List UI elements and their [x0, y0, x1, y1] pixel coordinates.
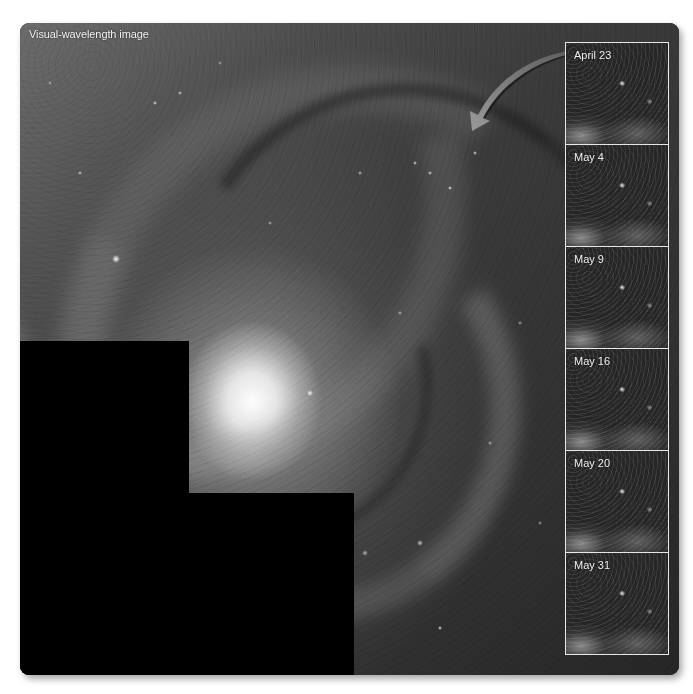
inset-date-label: April 23 [574, 49, 611, 61]
inset-panel: May 20 [566, 451, 668, 553]
inset-panel: May 9 [566, 247, 668, 349]
inset-date-label: May 20 [574, 457, 610, 469]
inset-date-label: May 31 [574, 559, 610, 571]
inset-date-label: May 16 [574, 355, 610, 367]
inset-date-label: May 9 [574, 253, 604, 265]
no-data-mask-lower [20, 493, 354, 675]
inset-panel: May 16 [566, 349, 668, 451]
inset-date-label: May 4 [574, 151, 604, 163]
inset-panel: April 23 [566, 43, 668, 145]
inset-panel: May 4 [566, 145, 668, 247]
time-series-insets: April 23 May 4 May 9 May 16 May 20 May 3… [565, 42, 669, 655]
image-caption: Visual-wavelength image [29, 28, 149, 40]
galaxy-image: Visual-wavelength image April 23 May 4 M… [20, 23, 679, 675]
figure: Visual-wavelength image April 23 May 4 M… [0, 0, 693, 694]
inset-panel: May 31 [566, 553, 668, 654]
